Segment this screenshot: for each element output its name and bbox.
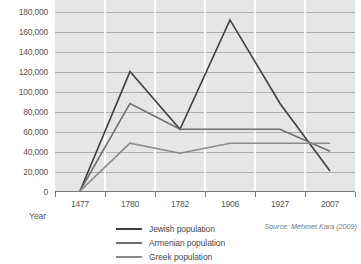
y-axis-tick-label: 180,000 xyxy=(19,7,48,17)
x-axis-tick-label: 1906 xyxy=(221,199,239,209)
series-lines xyxy=(55,0,355,191)
y-axis-tick-label: 40,000 xyxy=(23,147,48,157)
legend-label: Jewish population xyxy=(149,224,215,234)
y-axis-tick-label: 160,000 xyxy=(19,27,48,37)
x-axis-tick-label: 1780 xyxy=(121,199,139,209)
legend-item[interactable]: Greek population xyxy=(116,250,225,264)
x-axis-tick-label: 1782 xyxy=(171,199,189,209)
legend-swatch xyxy=(116,256,142,258)
y-axis-tick-label: 120,000 xyxy=(19,67,48,77)
x-axis-tick xyxy=(105,192,106,197)
legend-item[interactable]: Armenian population xyxy=(116,236,225,250)
y-axis-tick-label: 80,000 xyxy=(23,107,48,117)
y-axis-tick-label: 60,000 xyxy=(23,127,48,137)
x-axis-tick-label: 1927 xyxy=(271,199,289,209)
x-axis-tick xyxy=(205,192,206,197)
y-axis-labels: 200,000180,000160,000140,000120,000100,0… xyxy=(0,0,52,200)
legend-swatch xyxy=(116,228,142,230)
legend-label: Armenian population xyxy=(149,238,225,248)
y-axis-tick-label: 20,000 xyxy=(23,167,48,177)
x-axis-tick-label: 1477 xyxy=(71,199,89,209)
x-axis-title: Year xyxy=(29,211,46,221)
series-line xyxy=(80,20,330,191)
chart-legend: Jewish populationArmenian populationGree… xyxy=(116,222,225,264)
x-axis-tick xyxy=(305,192,306,197)
x-axis-tick xyxy=(255,192,256,197)
series-line xyxy=(80,103,330,191)
legend-item[interactable]: Jewish population xyxy=(116,222,225,236)
legend-label: Greek population xyxy=(149,252,212,262)
legend-swatch xyxy=(116,242,142,244)
series-line xyxy=(80,143,330,191)
y-axis-tick-label: 140,000 xyxy=(19,47,48,57)
y-axis-tick-label: 0 xyxy=(43,187,48,197)
plot-area xyxy=(55,0,355,192)
source-note: Source: Mehmet Kara (2009) xyxy=(264,222,357,231)
x-axis-tick xyxy=(55,192,56,197)
x-axis-tick-label: 2007 xyxy=(321,199,339,209)
y-axis-tick-label: 100,000 xyxy=(19,87,48,97)
x-axis-tick xyxy=(355,192,356,197)
x-axis-tick xyxy=(155,192,156,197)
